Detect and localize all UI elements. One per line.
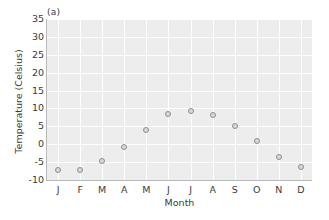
data-point: [99, 158, 105, 164]
plot-area: [47, 19, 312, 180]
x-tick-label: J: [46, 185, 70, 195]
x-axis-tick-labels: JFMAMJJASOND: [47, 185, 312, 197]
y-tick-label: 30: [2, 32, 44, 42]
gridline-vertical: [301, 19, 302, 180]
y-tick-label: 0: [2, 139, 44, 149]
y-axis-tick-labels: 35302520151050-5-10: [0, 19, 44, 180]
gridline-horizontal: [47, 91, 312, 92]
gridline-horizontal: [47, 126, 312, 127]
data-point: [188, 108, 194, 114]
y-tick-label: 35: [2, 14, 44, 24]
y-tick-label: 20: [2, 68, 44, 78]
y-tick-label: -10: [2, 175, 44, 185]
x-tick-label: A: [112, 185, 136, 195]
x-tick-label: N: [267, 185, 291, 195]
data-point: [232, 123, 238, 129]
y-tick-label: -5: [2, 157, 44, 167]
data-point: [298, 164, 304, 170]
x-tick-label: M: [90, 185, 114, 195]
gridline-vertical: [191, 19, 192, 180]
data-point: [165, 111, 171, 117]
data-point: [210, 112, 216, 118]
scatter-chart-figure: (a) Temperature (Celsius) 35302520151050…: [0, 0, 329, 220]
data-point: [121, 144, 127, 150]
x-tick-label: S: [223, 185, 247, 195]
x-tick-label: A: [201, 185, 225, 195]
gridline-vertical: [80, 19, 81, 180]
y-tick-label: 15: [2, 86, 44, 96]
x-tick-label: F: [68, 185, 92, 195]
x-tick-label: M: [134, 185, 158, 195]
y-tick-label: 25: [2, 50, 44, 60]
y-axis-line: [46, 19, 47, 181]
gridline-vertical: [257, 19, 258, 180]
x-tick-label: D: [289, 185, 313, 195]
gridline-vertical: [168, 19, 169, 180]
gridline-horizontal: [47, 73, 312, 74]
data-point: [55, 167, 61, 173]
x-tick-label: J: [179, 185, 203, 195]
data-point: [276, 154, 282, 160]
x-tick-label: J: [156, 185, 180, 195]
gridline-vertical: [146, 19, 147, 180]
data-point: [143, 127, 149, 133]
y-tick-label: 5: [2, 122, 44, 132]
panel-label: (a): [47, 8, 60, 17]
y-tick-label: 10: [2, 104, 44, 114]
gridline-vertical: [235, 19, 236, 180]
gridline-vertical: [58, 19, 59, 180]
gridline-horizontal: [47, 144, 312, 145]
gridline-vertical: [102, 19, 103, 180]
gridline-horizontal: [47, 19, 312, 20]
gridline-horizontal: [47, 162, 312, 163]
gridline-horizontal: [47, 108, 312, 109]
gridline-horizontal: [47, 37, 312, 38]
x-axis-title: Month: [47, 197, 312, 208]
data-point: [77, 167, 83, 173]
gridline-horizontal: [47, 55, 312, 56]
gridline-vertical: [213, 19, 214, 180]
gridline-vertical: [124, 19, 125, 180]
x-axis-line: [46, 180, 312, 181]
x-tick-label: O: [245, 185, 269, 195]
